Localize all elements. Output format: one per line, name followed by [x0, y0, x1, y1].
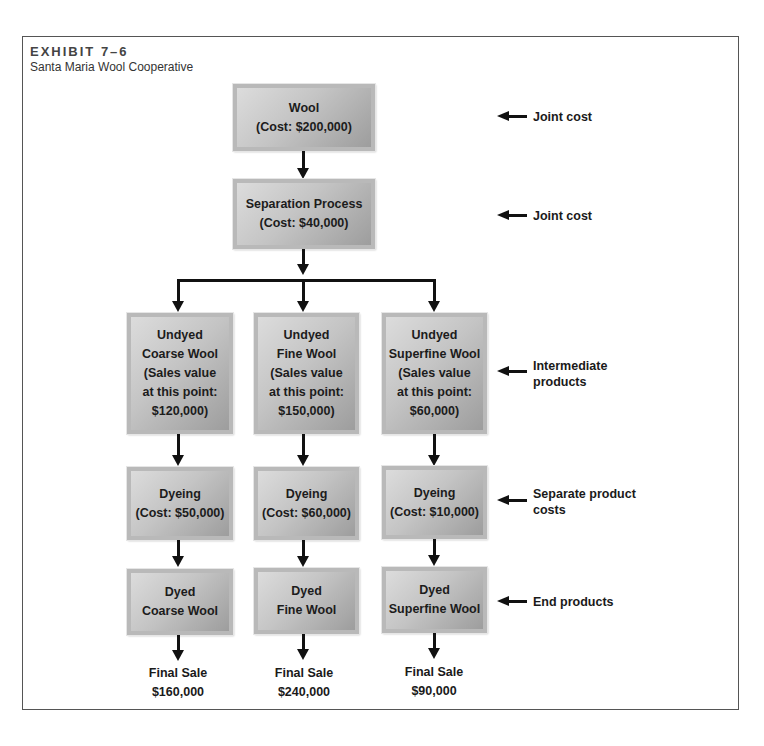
arrowhead-down-icon [172, 301, 184, 312]
node-dyeing-superfine: Dyeing (Cost: $10,000) [382, 466, 487, 539]
node-undyed-superfine-label: Undyed Superfine Wool (Sales value at th… [389, 326, 480, 421]
branch-drop-superfine [433, 279, 436, 301]
connector-wool-separation [302, 151, 305, 169]
arrowhead-down-icon [428, 301, 440, 312]
node-wool: Wool (Cost: $200,000) [233, 84, 375, 151]
branch-line [177, 279, 436, 282]
node-wool-label: Wool (Cost: $200,000) [256, 99, 352, 137]
node-dyed-coarse-label: Dyed Coarse Wool [142, 583, 218, 621]
final-sale-coarse: Final Sale $160,000 [118, 664, 238, 702]
arrow-left-icon [497, 109, 527, 123]
side-label-separate-product-costs: Separate product costs [497, 486, 636, 518]
side-label-end-products: End products [497, 594, 614, 610]
arrow-left-icon [497, 594, 527, 608]
arrowhead-down-icon [297, 301, 309, 312]
side-label-joint-cost-2: Joint cost [497, 208, 592, 224]
side-label-text: Separate product costs [533, 486, 636, 518]
node-dyed-fine-wool: Dyed Fine Wool [254, 568, 359, 634]
connector-undyed-dyeing-superfine [433, 434, 436, 456]
exhibit-title: Santa Maria Wool Cooperative [30, 60, 193, 74]
node-undyed-coarse-wool: Undyed Coarse Wool (Sales value at this … [127, 313, 233, 434]
node-undyed-coarse-label: Undyed Coarse Wool (Sales value at this … [142, 326, 218, 421]
node-dyeing-fine: Dyeing (Cost: $60,000) [254, 467, 359, 540]
node-dyed-superfine-label: Dyed Superfine Wool [389, 581, 480, 619]
side-label-text: Joint cost [533, 109, 592, 125]
side-label-joint-cost-1: Joint cost [497, 109, 592, 125]
final-sale-superfine: Final Sale $90,000 [374, 663, 494, 701]
arrowhead-down-icon [428, 455, 440, 466]
arrowhead-down-icon [297, 556, 309, 567]
exhibit-number: EXHIBIT 7–6 [30, 44, 129, 59]
arrowhead-down-icon [172, 455, 184, 466]
side-label-text: Intermediate products [533, 358, 607, 390]
connector-separation-branch [302, 249, 305, 265]
final-sale-value: $90,000 [374, 682, 494, 701]
final-sale-fine: Final Sale $240,000 [244, 664, 364, 702]
arrowhead-down-icon [172, 650, 184, 661]
arrow-left-icon [497, 364, 527, 378]
arrowhead-down-icon [297, 264, 309, 275]
node-undyed-fine-label: Undyed Fine Wool (Sales value at this po… [269, 326, 344, 421]
arrow-left-icon [497, 493, 527, 507]
side-label-intermediate-products: Intermediate products [497, 358, 607, 390]
node-separation-process: Separation Process (Cost: $40,000) [233, 179, 375, 249]
connector-undyed-dyeing-coarse [177, 434, 180, 456]
exhibit-frame-bottom-rule [22, 709, 739, 710]
connector-dyed-final-coarse [177, 635, 180, 651]
arrow-left-icon [497, 208, 527, 222]
branch-drop-fine [302, 279, 305, 301]
side-label-text: Joint cost [533, 208, 592, 224]
arrowhead-down-icon [428, 648, 440, 659]
side-label-text: End products [533, 594, 614, 610]
arrowhead-down-icon [297, 455, 309, 466]
node-dyeing-superfine-label: Dyeing (Cost: $10,000) [390, 484, 479, 522]
node-undyed-fine-wool: Undyed Fine Wool (Sales value at this po… [254, 313, 359, 434]
node-dyed-superfine-wool: Dyed Superfine Wool [382, 567, 487, 633]
connector-undyed-dyeing-fine [302, 434, 305, 456]
final-sale-label: Final Sale [118, 664, 238, 683]
arrowhead-down-icon [428, 555, 440, 566]
connector-dyeing-dyed-fine [302, 540, 305, 557]
connector-dyed-final-fine [302, 634, 305, 650]
node-undyed-superfine-wool: Undyed Superfine Wool (Sales value at th… [382, 313, 487, 434]
node-dyed-coarse-wool: Dyed Coarse Wool [127, 569, 233, 635]
connector-dyeing-dyed-coarse [177, 540, 180, 557]
final-sale-value: $240,000 [244, 683, 364, 702]
connector-dyed-final-superfine [433, 633, 436, 649]
final-sale-label: Final Sale [244, 664, 364, 683]
node-dyeing-coarse: Dyeing (Cost: $50,000) [127, 467, 233, 540]
arrowhead-down-icon [297, 649, 309, 660]
arrowhead-down-icon [172, 556, 184, 567]
node-separation-label: Separation Process (Cost: $40,000) [246, 195, 363, 233]
node-dyeing-fine-label: Dyeing (Cost: $60,000) [262, 485, 351, 523]
final-sale-label: Final Sale [374, 663, 494, 682]
arrowhead-down-icon [297, 168, 309, 179]
node-dyed-fine-label: Dyed Fine Wool [277, 582, 337, 620]
node-dyeing-coarse-label: Dyeing (Cost: $50,000) [136, 485, 225, 523]
connector-dyeing-dyed-superfine [433, 539, 436, 556]
final-sale-value: $160,000 [118, 683, 238, 702]
branch-drop-coarse [177, 279, 180, 301]
